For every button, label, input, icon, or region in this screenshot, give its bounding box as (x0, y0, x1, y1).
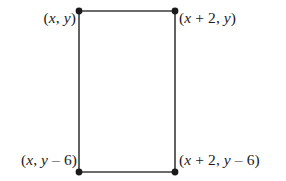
vertex-dot-bottom-left (76, 169, 83, 176)
vertex-dot-top-left (76, 8, 83, 15)
vertex-dot-top-right (172, 8, 179, 15)
vertex-label-bottom-right: (x + 2, y – 6) (179, 152, 260, 168)
vertex-label-top-right: (x + 2, y) (179, 10, 236, 26)
geometry-figure: (x, y) (x + 2, y) (x, y – 6) (x + 2, y –… (0, 0, 286, 181)
vertex-label-top-left: (x, y) (4, 10, 76, 26)
vertex-dot-bottom-right (172, 169, 179, 176)
vertex-label-bottom-left: (x, y – 6) (0, 152, 77, 168)
